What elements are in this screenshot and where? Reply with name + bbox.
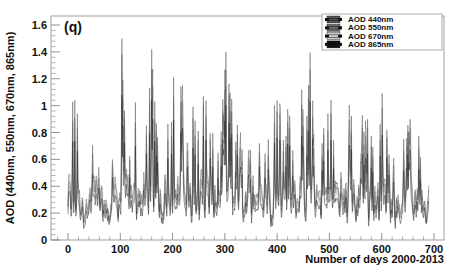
y-tick-label: 1.6 (32, 19, 47, 31)
y-tick-label: 0.4 (32, 180, 48, 192)
legend-marker-fill (329, 35, 338, 37)
legend-label: AOD 865nm (348, 40, 393, 49)
x-tick-label: 300 (216, 243, 234, 255)
legend-marker-fill (329, 43, 338, 45)
legend-marker-fill (329, 27, 338, 29)
legend-marker-fill (329, 19, 338, 21)
legend: AOD 440nmAOD 550nmAOD 670nmAOD 865nm (322, 14, 442, 50)
aod-time-series-chart: 00.20.40.60.811.21.41.601002003004005006… (0, 0, 459, 277)
x-tick-label: 100 (111, 243, 129, 255)
y-tick-label: 0.2 (32, 207, 47, 219)
y-axis-title: AOD (440nm, 550nm, 670nm, 865nm) (4, 31, 16, 224)
panel-label: (q) (64, 19, 82, 35)
y-tick-label: 1 (41, 100, 47, 112)
y-tick-label: 1.4 (32, 46, 48, 58)
x-axis-title: Number of days 2000-2013 (305, 253, 444, 265)
y-tick-label: 1.2 (32, 73, 47, 85)
y-tick-label: 0.6 (32, 153, 47, 165)
y-tick-label: 0.8 (32, 127, 47, 139)
y-tick-label: 0 (41, 234, 47, 246)
x-tick-label: 0 (65, 243, 71, 255)
x-tick-label: 200 (163, 243, 181, 255)
x-tick-label: 400 (268, 243, 286, 255)
